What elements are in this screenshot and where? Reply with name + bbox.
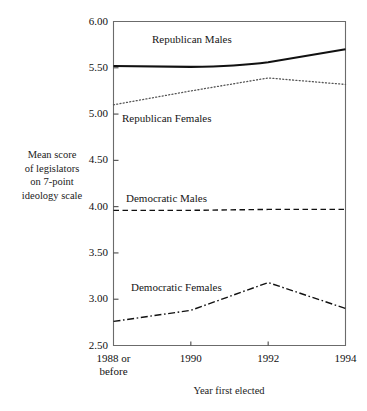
x-axis-title: Year first elected (113, 385, 345, 396)
x-axis-tick-label: 1988 orbefore (97, 352, 131, 378)
chart-figure: Mean score of legislators on 7-point ide… (0, 0, 367, 411)
series-label-republican-females: Republican Females (122, 112, 212, 124)
x-axis-tick-labels: 1988 orbefore199019921994 (0, 0, 367, 411)
series-label-republican-males: Republican Males (152, 33, 232, 45)
series-label-democratic-females: Democratic Females (131, 281, 222, 293)
x-axis-tick-label: 1990 (180, 352, 202, 365)
series-label-democratic-males: Democratic Males (126, 192, 207, 204)
x-axis-tick-label: 1994 (335, 352, 357, 365)
x-axis-tick-label: 1992 (257, 352, 279, 365)
